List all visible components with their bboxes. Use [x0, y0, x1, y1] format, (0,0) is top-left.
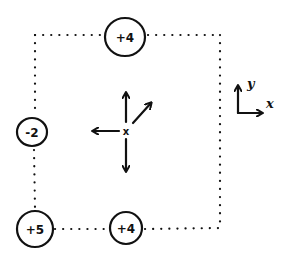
arrow-up-right-icon: [133, 103, 151, 123]
charge-left: -2: [17, 118, 47, 146]
x-axis-label: x: [265, 96, 274, 111]
charge-diagram: +4 -2 +5 +4 x y x: [0, 0, 288, 257]
center-point: x: [123, 126, 130, 137]
y-axis-label: y: [246, 76, 256, 91]
boundary-left-lower-segment: [34, 150, 35, 208]
charge-label: +4: [116, 31, 134, 45]
charge-bottom-left: +5: [17, 211, 53, 247]
boundary-bottom-right-segment: [145, 228, 220, 229]
charge-bottom: +4: [110, 212, 142, 244]
center-x-marker: x: [123, 126, 130, 137]
charge-label: +5: [26, 223, 44, 237]
charge-top: +4: [105, 18, 145, 56]
charge-label: -2: [25, 126, 38, 140]
charge-label: +4: [117, 222, 135, 236]
